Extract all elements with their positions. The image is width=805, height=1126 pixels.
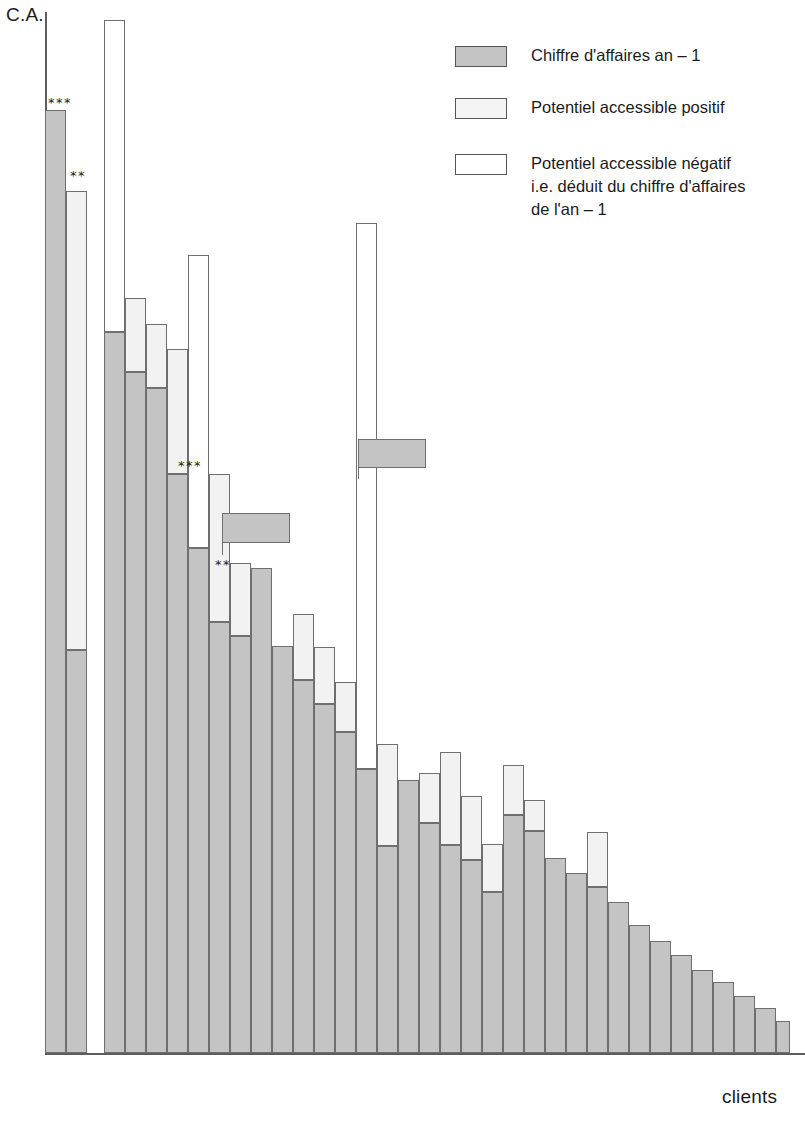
bar-segment-ca [524, 831, 545, 1053]
bar-flag-box [358, 439, 426, 468]
bar-segment-positif [146, 324, 167, 388]
chart-legend: Chiffre d'affaires an – 1Potentiel acces… [0, 0, 805, 260]
legend-item[interactable]: Potentiel accessible positif [455, 96, 725, 119]
bar-segment-ca [251, 568, 272, 1053]
bar-segment-ca [209, 622, 230, 1053]
bar-segment-positif [503, 765, 524, 815]
bar-segment-ca [608, 902, 629, 1053]
bar-segment-ca [356, 769, 377, 1053]
bar-segment-ca [629, 925, 650, 1053]
bar-segment-positif [293, 614, 314, 681]
bar-segment-ca [776, 1021, 790, 1053]
legend-item[interactable]: Potentiel accessible négatif i.e. déduit… [455, 152, 745, 221]
bar-segment-ca [755, 1008, 776, 1053]
bar-segment-ca [419, 823, 440, 1053]
bar-segment-ca [167, 474, 188, 1053]
bar-segment-ca [272, 646, 293, 1053]
bar-segment-ca [398, 780, 419, 1053]
bar-segment-ca [503, 815, 524, 1053]
bar-segment-ca [671, 955, 692, 1053]
legend-swatch-neg [455, 154, 507, 175]
bar-segment-ca [650, 941, 671, 1053]
bar-segment-ca [377, 846, 398, 1053]
bar-segment-ca [104, 332, 125, 1053]
bar-segment-positif [419, 773, 440, 823]
bar-flag-stem [358, 468, 359, 479]
legend-swatch-ca [455, 46, 507, 67]
bar-segment-positif [230, 563, 251, 636]
bar-segment-positif [125, 298, 146, 372]
bar-segment-positif [377, 744, 398, 846]
bar-segment-ca [335, 732, 356, 1053]
legend-label: Potentiel accessible négatif i.e. déduit… [531, 152, 745, 221]
bar-flag-stem [222, 543, 223, 555]
chart-canvas: C.A. clients ********** Chiffre d'affair… [0, 0, 805, 1126]
bar-segment-ca [314, 704, 335, 1053]
bar-segment-positif [587, 832, 608, 887]
significance-marker: *** [178, 459, 202, 472]
bar-segment-ca [440, 845, 461, 1053]
bar-segment-positif [440, 752, 461, 845]
bar-segment-ca [146, 388, 167, 1053]
bar-segment-positif [461, 796, 482, 861]
bar-segment-ca [461, 860, 482, 1053]
bar-segment-ca [188, 548, 209, 1053]
bar-segment-positif [482, 844, 503, 892]
legend-swatch-pos [455, 98, 507, 119]
bar-segment-ca [734, 996, 755, 1053]
bar-segment-positif [335, 682, 356, 732]
bar-segment-positif [314, 647, 335, 704]
bar-segment-ca [125, 372, 146, 1053]
bar-segment-ca [587, 887, 608, 1053]
bar-segment-ca [566, 873, 587, 1053]
bar-segment-ca [692, 970, 713, 1053]
legend-label: Chiffre d'affaires an – 1 [531, 44, 700, 67]
bar-segment-ca [713, 982, 734, 1053]
bar-segment-ca [482, 892, 503, 1053]
significance-marker: ** [215, 558, 231, 571]
bar-segment-positif [167, 349, 188, 474]
bar-segment-ca [66, 650, 87, 1053]
bar-segment-ca [545, 858, 566, 1053]
bar-segment-ca [230, 636, 251, 1053]
bar-segment-ca [293, 680, 314, 1053]
bar-segment-positif [209, 474, 230, 622]
legend-label: Potentiel accessible positif [531, 96, 725, 119]
legend-item[interactable]: Chiffre d'affaires an – 1 [455, 44, 700, 67]
bar-segment-negatif [356, 223, 377, 768]
bar-flag-box [222, 513, 290, 543]
bar-segment-negatif [188, 255, 209, 549]
bar-segment-positif [524, 800, 545, 831]
